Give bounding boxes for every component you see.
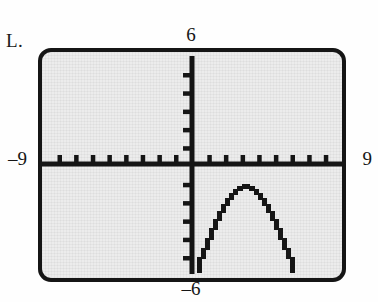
page-root: L. 6 –9 9 –6 (0, 0, 378, 302)
parabola-curve (197, 184, 295, 273)
window-ymax-value: 6 (186, 24, 196, 45)
plot-area (42, 52, 342, 278)
graph-svg (42, 52, 342, 278)
calculator-screen (38, 48, 346, 282)
y-axis-ticks (183, 73, 190, 261)
window-ymax-label: 6 (0, 24, 378, 46)
window-xmax-label: 9 (363, 148, 373, 170)
y-axis-line (190, 56, 195, 274)
window-xmin-label: –9 (8, 148, 27, 170)
